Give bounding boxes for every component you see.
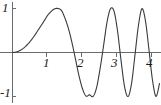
y-axis-label-negative-one: -1 [0,86,11,99]
function-plot-figure: 1 -1 1 2 3 4 [0,0,161,105]
x-axis-label-2: 2 [77,56,84,69]
axes-group [0,2,161,103]
x-tick-marks [47,53,152,58]
x-axis-label-1: 1 [43,56,50,69]
x-axis-label-4: 4 [146,56,153,69]
y-axis-label-positive-one: 1 [2,1,9,14]
plot-canvas [0,0,161,105]
x-axis-label-3: 3 [111,56,118,69]
